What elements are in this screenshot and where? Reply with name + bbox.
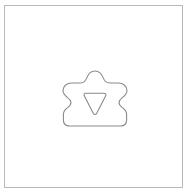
figure-group	[0, 0, 188, 196]
drawing-canvas	[0, 0, 188, 196]
rounded-crown-outline-shape	[63, 71, 127, 126]
downward-triangle-shape	[84, 93, 106, 114]
